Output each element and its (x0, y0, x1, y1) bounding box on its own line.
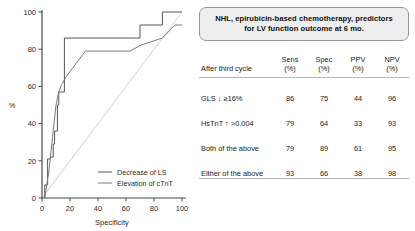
legend-label-2: Elevation of cTnT (117, 179, 174, 188)
cell-spec: 89 (307, 128, 341, 153)
y-axis-tick-label: 20 (28, 157, 36, 166)
cell-ppv: 61 (341, 128, 375, 153)
table-row: GLS ↓ ≥16%86754496 (199, 77, 409, 103)
x-axis-tick-label: 20 (66, 204, 74, 213)
column-header-spec: Spec (%) (307, 55, 341, 77)
column-header-npv: NPV (%) (375, 55, 409, 77)
column-header-sens-top: Sens (273, 55, 307, 64)
cell-ppv: 38 (341, 153, 375, 179)
table-body: GLS ↓ ≥16%86754496HsTnT ↑ >0.00479643393… (199, 77, 409, 178)
cell-ppv: 44 (341, 77, 375, 103)
cell-npv: 95 (375, 128, 409, 153)
roc-and-predictors-figure: 020406080100020406080100%SpecificityDecr… (0, 0, 415, 231)
x-axis-tick-label: 100 (176, 204, 189, 213)
x-axis-title: Specificity (95, 218, 129, 227)
column-header-spec-unit: (%) (307, 64, 341, 73)
table-row: Either of the above93663898 (199, 153, 409, 179)
table-row: HsTnT ↑ >0.00479643393 (199, 103, 409, 128)
column-header-criterion-label: After third cycle (201, 64, 273, 73)
row-criterion-label: HsTnT ↑ >0.004 (199, 103, 273, 128)
predictors-table: After third cycle Sens (%) Spec (%) PPV … (199, 55, 409, 179)
table-row: Both of the above79896195 (199, 128, 409, 153)
cell-npv: 98 (375, 153, 409, 179)
x-axis-tick-label: 0 (40, 204, 44, 213)
x-axis-tick-label: 60 (122, 204, 130, 213)
y-axis-title: % (9, 101, 16, 110)
column-header-npv-top: NPV (375, 55, 409, 64)
table-header: After third cycle Sens (%) Spec (%) PPV … (199, 55, 409, 77)
y-axis-tick-label: 60 (28, 82, 36, 91)
column-header-npv-unit: (%) (375, 64, 409, 73)
cell-sens: 93 (273, 153, 307, 179)
predictors-panel: NHL, epirubicin-based chemotherapy, pred… (195, 0, 415, 231)
roc-chart-svg: 020406080100020406080100%SpecificityDecr… (0, 0, 195, 231)
column-header-ppv-top: PPV (341, 55, 375, 64)
cell-spec: 64 (307, 103, 341, 128)
y-axis-tick-label: 0 (32, 194, 36, 203)
cell-sens: 79 (273, 128, 307, 153)
cell-sens: 79 (273, 103, 307, 128)
row-criterion-label: Both of the above (199, 128, 273, 153)
panel-title-line-2: for LV function outcome at 6 mo. (206, 24, 402, 34)
x-axis-tick-label: 80 (150, 204, 158, 213)
column-header-spec-top: Spec (307, 55, 341, 64)
table-header-row: After third cycle Sens (%) Spec (%) PPV … (199, 55, 409, 77)
cell-npv: 96 (375, 77, 409, 103)
y-axis-tick-label: 80 (28, 45, 36, 54)
y-axis-tick-label: 100 (23, 8, 36, 17)
panel-title-box: NHL, epirubicin-based chemotherapy, pred… (199, 7, 409, 41)
column-header-ppv-unit: (%) (341, 64, 375, 73)
x-axis-tick-label: 40 (94, 204, 102, 213)
y-axis-tick-label: 40 (28, 119, 36, 128)
cell-npv: 93 (375, 103, 409, 128)
panel-title-line-1: NHL, epirubicin-based chemotherapy, pred… (206, 14, 402, 24)
column-header-sens-unit: (%) (273, 64, 307, 73)
row-criterion-label: GLS ↓ ≥16% (199, 77, 273, 103)
column-header-criterion: After third cycle (199, 55, 273, 77)
cell-spec: 75 (307, 77, 341, 103)
legend-label-1: Decrease of LS (117, 168, 167, 177)
cell-ppv: 33 (341, 103, 375, 128)
roc-chart-panel: 020406080100020406080100%SpecificityDecr… (0, 0, 195, 231)
row-criterion-label: Either of the above (199, 153, 273, 179)
column-header-ppv: PPV (%) (341, 55, 375, 77)
cell-sens: 86 (273, 77, 307, 103)
column-header-sens: Sens (%) (273, 55, 307, 77)
cell-spec: 66 (307, 153, 341, 179)
